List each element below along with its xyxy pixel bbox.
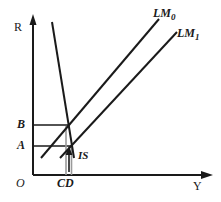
y-axis-label: R <box>14 21 22 33</box>
y-tick-label-a: A <box>17 139 25 151</box>
curve-label-lm1-main: LM <box>177 26 195 40</box>
curve-label-lm0-sub: 0 <box>171 12 176 22</box>
y-axis <box>30 14 37 175</box>
origin-label: O <box>16 177 25 189</box>
is-lm-chart: R Y O B A C D IS LM0 LM1 <box>0 0 221 202</box>
curve-label-lm0: LM0 <box>153 7 176 22</box>
x-tick-label-c: C <box>57 177 65 189</box>
curve-is <box>52 22 74 158</box>
curve-lm0 <box>41 19 159 158</box>
x-tick-label-d: D <box>65 177 74 189</box>
x-axis-label: Y <box>193 180 202 192</box>
curve-label-is: IS <box>78 150 88 161</box>
curve-label-lm1: LM1 <box>177 27 200 42</box>
curve-label-lm1-sub: 1 <box>195 32 200 42</box>
y-tick-label-b: B <box>17 118 25 130</box>
curve-label-lm0-main: LM <box>153 6 171 20</box>
curve-lm1 <box>60 32 177 158</box>
